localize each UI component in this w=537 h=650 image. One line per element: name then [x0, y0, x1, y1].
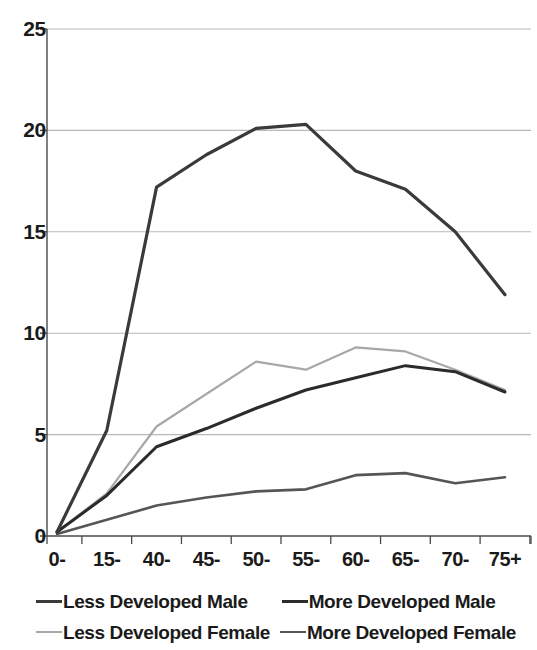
x-axis-tick-labels: 0-15-40-45-50-55-60-65-70-75+	[0, 548, 537, 582]
legend-item-more-developed-male[interactable]: More Developed Male	[282, 592, 516, 611]
y-tick-label: 25	[23, 17, 46, 41]
y-axis-tick-labels: 0510152025	[0, 0, 46, 560]
y-tick-label: 0	[35, 524, 46, 548]
gridlines	[47, 29, 531, 536]
legend-label: Less Developed Female	[63, 623, 270, 642]
legend-row: Less Developed MaleMore Developed Male	[36, 586, 516, 616]
chart-canvas	[0, 0, 537, 560]
legend-row: Less Developed FemaleMore Developed Fema…	[36, 617, 516, 647]
series-line-less-developed-female	[57, 347, 505, 532]
x-tick-label: 75+	[489, 548, 521, 571]
y-tick-label: 10	[23, 321, 46, 345]
chart-legend: Less Developed MaleMore Developed Male L…	[0, 586, 537, 650]
legend-line-swatch-icon	[36, 631, 62, 633]
legend-line-swatch-icon	[36, 600, 62, 603]
x-tick-label: 70-	[442, 548, 469, 571]
legend-label: More Developed Female	[307, 623, 516, 642]
legend-item-less-developed-female[interactable]: Less Developed Female	[36, 623, 280, 642]
axes	[40, 29, 531, 544]
y-tick-label: 15	[23, 220, 46, 244]
x-tick-label: 15-	[93, 548, 120, 571]
legend-line-swatch-icon	[280, 631, 306, 633]
legend-item-more-developed-female[interactable]: More Developed Female	[280, 623, 516, 642]
x-tick-label: 65-	[392, 548, 419, 571]
y-tick-label: 20	[23, 118, 46, 142]
x-tick-label: 60-	[342, 548, 369, 571]
x-tick-label: 50-	[242, 548, 269, 571]
x-tick-label: 0-	[49, 548, 66, 571]
legend-label: Less Developed Male	[63, 592, 248, 611]
line-chart: 0510152025 0-15-40-45-50-55-60-65-70-75+…	[0, 0, 537, 650]
legend-item-less-developed-male[interactable]: Less Developed Male	[36, 592, 282, 611]
series-line-more-developed-male	[57, 366, 505, 532]
legend-label: More Developed Male	[309, 592, 496, 611]
plot-area: 0510152025	[0, 0, 537, 560]
y-tick-label: 5	[35, 423, 46, 447]
legend-line-swatch-icon	[282, 600, 308, 603]
x-tick-label: 45-	[193, 548, 220, 571]
x-tick-label: 55-	[292, 548, 319, 571]
series-line-more-developed-female	[57, 473, 505, 534]
x-tick-label: 40-	[143, 548, 170, 571]
